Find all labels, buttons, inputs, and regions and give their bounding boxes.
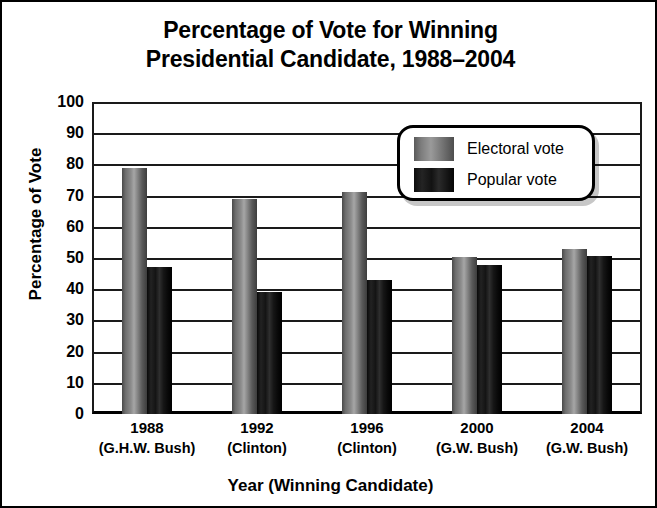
bar-1996-electoral-vote: [342, 192, 367, 414]
x-axis-category-candidate: (Clinton): [312, 438, 422, 458]
bar-1992-popular-vote: [257, 292, 282, 414]
x-axis-category-year: 2004: [532, 418, 642, 438]
gridline: [92, 227, 642, 229]
x-axis-category-candidate: (G.W. Bush): [532, 438, 642, 458]
x-axis-category-year: 2000: [422, 418, 532, 438]
bar-2004-electoral-vote: [562, 249, 587, 414]
legend-label-popular-vote: Popular vote: [467, 171, 557, 189]
legend-label-electoral-vote: Electoral vote: [467, 140, 564, 158]
x-axis-category-year: 1996: [312, 418, 422, 438]
bar-1988-electoral-vote: [122, 168, 147, 414]
bar-1996-popular-vote: [367, 280, 392, 414]
x-axis-category-1992: 1992(Clinton): [202, 418, 312, 458]
y-axis-tick-label: 0: [75, 405, 84, 423]
x-axis-category-year: 1988: [92, 418, 202, 438]
y-axis-tick-label: 40: [66, 280, 84, 298]
legend: Electoral vote Popular vote: [397, 125, 595, 201]
x-axis-category-2000: 2000(G.W. Bush): [422, 418, 532, 458]
y-axis-tick-label: 20: [66, 343, 84, 361]
bar-1988-popular-vote: [147, 267, 172, 414]
x-axis-title: Year (Winning Candidate): [2, 476, 657, 496]
y-axis-tick-label: 60: [66, 218, 84, 236]
bar-1992-electoral-vote: [232, 199, 257, 414]
y-axis-tick-label: 80: [66, 155, 84, 173]
x-axis-category-2004: 2004(G.W. Bush): [532, 418, 642, 458]
legend-item-popular-vote: Popular vote: [414, 168, 557, 192]
bar-2004-popular-vote: [587, 256, 612, 414]
y-axis-tick-label: 100: [57, 93, 84, 111]
chart-figure: Percentage of Vote for Winning President…: [0, 0, 657, 508]
y-axis-tick-label: 30: [66, 311, 84, 329]
x-axis-category-1988: 1988(G.H.W. Bush): [92, 418, 202, 458]
y-axis-title: Percentage of Vote: [26, 94, 46, 354]
legend-swatch-popular-vote: [414, 168, 454, 192]
chart-title-line-2: Presidential Candidate, 1988–2004: [2, 45, 657, 74]
gridline: [92, 102, 642, 104]
chart-title: Percentage of Vote for Winning President…: [2, 16, 657, 74]
y-axis-tick-label: 70: [66, 187, 84, 205]
x-axis-category-candidate: (G.H.W. Bush): [92, 438, 202, 458]
bar-2000-popular-vote: [477, 265, 502, 414]
x-axis-category-candidate: (Clinton): [202, 438, 312, 458]
y-axis-tick-label: 90: [66, 124, 84, 142]
x-axis-category-year: 1992: [202, 418, 312, 438]
x-axis-category-1996: 1996(Clinton): [312, 418, 422, 458]
legend-item-electoral-vote: Electoral vote: [414, 137, 564, 161]
y-axis-tick-label: 50: [66, 249, 84, 267]
legend-swatch-electoral-vote: [414, 137, 454, 161]
bar-2000-electoral-vote: [452, 257, 477, 414]
chart-title-line-1: Percentage of Vote for Winning: [2, 16, 657, 45]
x-axis-category-candidate: (G.W. Bush): [422, 438, 532, 458]
gridline: [92, 258, 642, 260]
y-axis-tick-label: 10: [66, 374, 84, 392]
